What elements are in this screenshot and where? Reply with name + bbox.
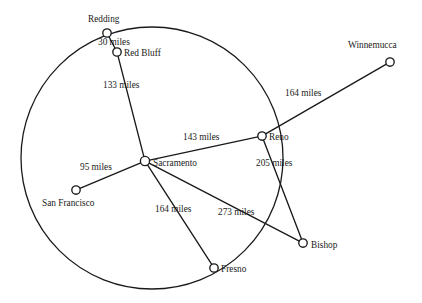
node-label-san-francisco: San Francisco (42, 198, 95, 208)
circle-layer (21, 27, 283, 289)
node-label-redding: Redding (88, 14, 120, 24)
node-san-francisco[interactable] (72, 186, 80, 194)
node-fresno[interactable] (210, 264, 218, 272)
graph-edge-red-bluff-sacramento (118, 56, 144, 156)
node-sacramento[interactable] (140, 156, 149, 165)
enclosing-circle (21, 27, 283, 289)
node-label-sacramento: Sacramento (153, 158, 197, 168)
edge-label-sacramento-bishop: 273 miles (218, 207, 255, 217)
node-winnemucca[interactable] (386, 58, 394, 66)
node-reno[interactable] (258, 132, 266, 140)
node-red-bluff[interactable] (113, 48, 121, 56)
node-label-reno: Reno (269, 132, 289, 142)
node-label-bishop: Bishop (311, 240, 338, 250)
node-label-fresno: Fresno (221, 264, 247, 274)
edge-label-red-bluff-sacramento: 133 miles (103, 80, 140, 90)
edge-label-sacramento-fresno: 164 miles (155, 204, 192, 214)
graph-edge-sacramento-fresno (147, 165, 211, 265)
edge-label-redding-red-bluff: 30 miles (98, 37, 130, 47)
edge-layer (80, 37, 386, 265)
node-label-red-bluff: Red Bluff (124, 48, 162, 58)
edge-label-reno-winnemucca: 164 miles (285, 88, 322, 98)
graph-edge-reno-winnemucca (266, 64, 387, 134)
edge-label-sacramento-san-francisco: 95 miles (80, 162, 112, 172)
edge-label-sacramento-reno: 143 miles (183, 132, 220, 142)
node-label-layer: ReddingRed BluffWinnemuccaRenoSacramento… (42, 14, 397, 274)
graph-diagram: 30 miles133 miles143 miles164 miles95 mi… (0, 0, 422, 303)
node-redding[interactable] (103, 29, 111, 37)
node-label-winnemucca: Winnemucca (348, 40, 397, 50)
edge-label-reno-bishop: 205 miles (256, 158, 293, 168)
node-bishop[interactable] (299, 239, 307, 247)
